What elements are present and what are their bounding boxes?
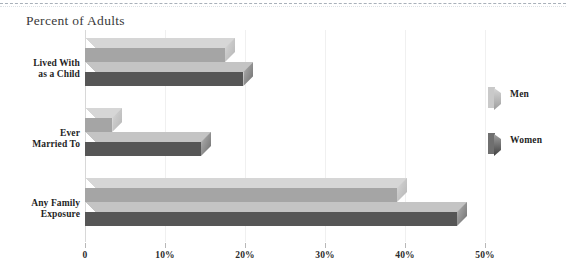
tick-label-0: 0 (83, 250, 88, 260)
category-label-line: Exposure (2, 209, 80, 220)
gridline-50 (485, 30, 486, 242)
tick-mark-30 (325, 243, 326, 248)
legend-swatch-icon (488, 130, 501, 156)
plot-area (85, 30, 485, 242)
top-dashed-rule (0, 3, 566, 4)
category-label-line: Ever (2, 128, 80, 139)
category-label-lived-with-as-a-child: Lived With as a Child (2, 58, 80, 80)
legend-item-men[interactable]: Men (488, 84, 566, 130)
legend: Men Women (488, 84, 566, 176)
category-label-line: Any Family (2, 198, 80, 209)
category-label-line: Married To (2, 139, 80, 150)
legend-item-women[interactable]: Women (488, 130, 566, 176)
category-label-ever-married-to: Ever Married To (2, 128, 80, 150)
tick-mark-40 (405, 243, 406, 248)
category-label-line: Lived With (2, 58, 80, 69)
category-axis-labels: Lived With as a Child Ever Married To An… (0, 0, 80, 276)
tick-mark-20 (245, 243, 246, 248)
tick-mark-0 (85, 243, 86, 248)
tick-label-30: 30% (315, 250, 335, 260)
tick-mark-10 (165, 243, 166, 248)
tick-label-40: 40% (395, 250, 415, 260)
tick-label-10: 10% (155, 250, 175, 260)
tick-mark-50 (485, 243, 486, 248)
legend-label-women: Women (510, 135, 542, 145)
legend-swatch-icon (488, 84, 501, 110)
legend-label-men: Men (510, 89, 529, 99)
tick-label-20: 20% (235, 250, 255, 260)
chart-page: Percent of Adults Lived With as a Child … (0, 0, 566, 276)
category-label-line: as a Child (2, 69, 80, 80)
top-dotted-rule (0, 6, 566, 7)
category-label-any-family-exposure: Any Family Exposure (2, 198, 80, 220)
tick-label-50: 50% (475, 250, 495, 260)
